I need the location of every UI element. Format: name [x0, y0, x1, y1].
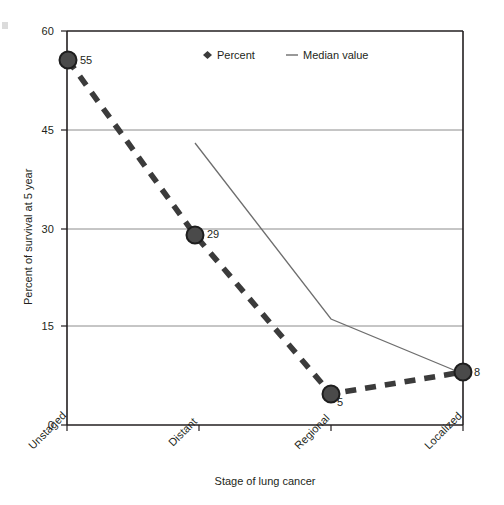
y-axis-title: Percent of survival at 5 year	[22, 169, 34, 305]
data-point-unstaged[interactable]	[60, 52, 77, 69]
data-point-distant[interactable]	[187, 227, 204, 244]
series-percent-line	[68, 60, 463, 394]
legend-item-median-value[interactable]: Median value	[303, 49, 368, 61]
x-axis-title: Stage of lung cancer	[155, 475, 375, 487]
data-label-unstaged: 55	[80, 54, 92, 66]
data-point-localized[interactable]	[455, 364, 472, 381]
edge-artifact	[2, 22, 8, 29]
data-label-regional: 5	[337, 396, 343, 408]
legend-item-percent[interactable]: Percent	[217, 49, 255, 61]
data-label-localized: 8	[474, 366, 480, 378]
series-median-value-line	[195, 143, 461, 373]
data-label-distant: 29	[207, 228, 219, 240]
chart-plot-area	[0, 0, 504, 505]
chart-figure: 60 45 30 15 0 Percent of survival at 5 y…	[0, 0, 504, 505]
y-tick-label-15: 15	[26, 320, 54, 332]
legend-diamond-icon	[203, 51, 212, 59]
y-tick-label-60: 60	[26, 25, 54, 37]
y-tick-label-45: 45	[26, 124, 54, 136]
